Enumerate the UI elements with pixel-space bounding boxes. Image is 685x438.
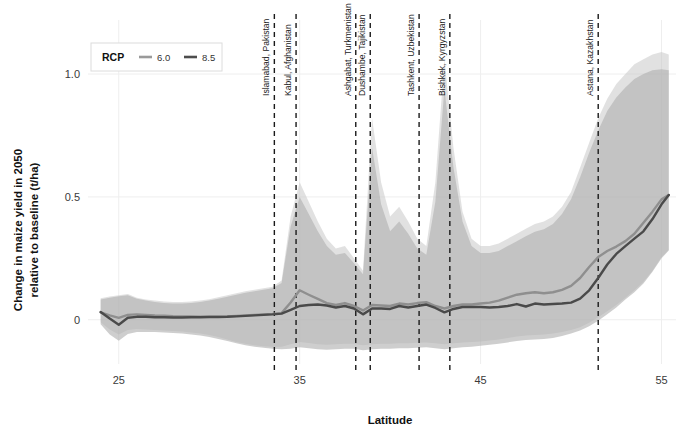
y-axis-label-line2: relative to baseline (t/ha) [28,162,40,297]
city-label-3: Dushambe, Tajikistan [357,14,367,96]
y-axis-label-line1: Change in maize yield in 2050 [12,149,24,311]
y-tick-label-2: 1.0 [65,68,80,80]
y-tick-label-0: 0 [74,314,80,326]
legend-label-rcp60[interactable]: 6.0 [157,52,170,63]
x-axis-label: Latitude [368,414,413,426]
maize-yield-latitude-chart: Islamabad, PakistanKabul, AfghanistanAsh… [0,0,685,438]
legend-title: RCP [102,51,124,63]
x-tick-label-3: 55 [655,374,667,386]
city-label-0: Islamabad, Pakistan [261,18,271,96]
legend-label-rcp85[interactable]: 8.5 [202,52,215,63]
city-label-5: Bishkek, Kyrgyzstan [437,18,447,96]
y-tick-label-1: 0.5 [65,191,80,203]
x-tick-label-2: 45 [474,374,486,386]
city-label-6: Astana, Kazakhstan [585,19,595,96]
city-label-1: Kabul, Afghanistan [283,24,293,96]
city-label-4: Tashkent, Uzbekistan [406,14,416,96]
city-label-2: Ashgabat, Turkmenistan [343,3,353,96]
x-tick-label-1: 35 [294,374,306,386]
legend[interactable]: RCP 6.0 8.5 [91,43,222,71]
x-tick-label-0: 25 [113,374,125,386]
chart-figure: Islamabad, PakistanKabul, AfghanistanAsh… [0,0,685,438]
